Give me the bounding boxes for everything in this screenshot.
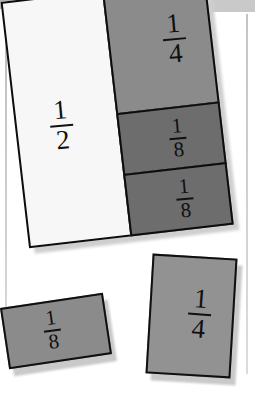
fraction-label-loose-quarter: 1 4 <box>186 286 213 343</box>
denominator: 4 <box>168 41 184 67</box>
fraction-cell-quarter[interactable]: 1 4 <box>102 0 220 115</box>
denominator: 8 <box>179 201 191 221</box>
page-guide-line-right <box>246 14 248 374</box>
numerator: 1 <box>52 98 68 124</box>
numerator: 1 <box>177 176 189 196</box>
fraction-label-loose-eighth: 1 8 <box>41 308 64 353</box>
denominator: 8 <box>172 140 184 160</box>
numerator: 1 <box>44 308 57 329</box>
denominator: 4 <box>191 317 206 343</box>
fraction-pieces-scene: 1 2 1 4 1 8 1 8 <box>0 0 255 397</box>
table-surface-band-right <box>207 0 255 12</box>
denominator: 2 <box>55 128 71 154</box>
fraction-label-quarter: 1 4 <box>160 11 188 68</box>
fraction-label-eighth-upper: 1 8 <box>167 115 188 160</box>
fraction-label-half: 1 2 <box>47 97 75 154</box>
numerator: 1 <box>170 116 182 136</box>
fraction-label-eighth-lower: 1 8 <box>174 176 195 221</box>
fraction-cell-eighth-lower[interactable]: 1 8 <box>123 162 234 237</box>
numerator: 1 <box>165 11 181 37</box>
numerator: 1 <box>193 286 208 312</box>
denominator: 8 <box>47 332 60 353</box>
loose-piece-quarter[interactable]: 1 4 <box>146 254 238 379</box>
fraction-bar-composite[interactable]: 1 2 1 4 1 8 1 8 <box>1 0 234 248</box>
